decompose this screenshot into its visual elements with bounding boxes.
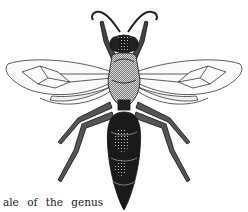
thorax bbox=[108, 53, 140, 110]
wasp-illustration bbox=[0, 0, 248, 212]
hind-leg-left bbox=[58, 112, 114, 182]
caption-text: ale of the genus bbox=[3, 196, 103, 208]
hind-leg-right bbox=[134, 112, 190, 182]
wing-right bbox=[136, 60, 242, 104]
head bbox=[110, 35, 138, 53]
abdomen bbox=[107, 112, 140, 210]
antenna-right bbox=[128, 12, 157, 32]
page: ale of the genus bbox=[0, 0, 248, 212]
antenna-left bbox=[92, 12, 120, 32]
wing-left bbox=[6, 60, 112, 104]
